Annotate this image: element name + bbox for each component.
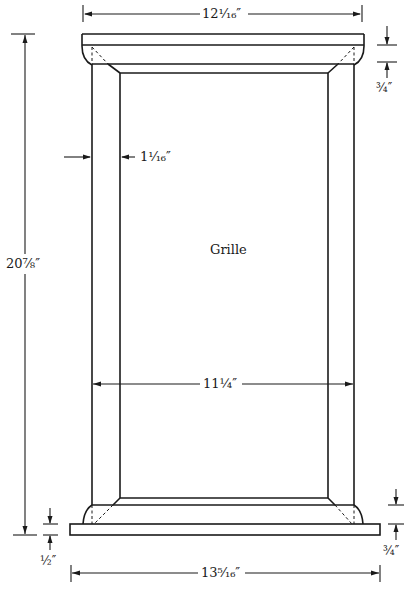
top-cap bbox=[82, 34, 364, 65]
top-width-label: 12¹⁄₁₆″ bbox=[202, 7, 241, 20]
inner-width-label: 11¼″ bbox=[203, 377, 237, 390]
bottom-rail-height-label: ¾″ bbox=[383, 545, 399, 557]
overall-height-dimension bbox=[11, 34, 37, 535]
stile-width-dimension bbox=[64, 155, 135, 160]
base-thickness-dimension bbox=[43, 508, 58, 550]
bottom-rail-height-dimension bbox=[388, 489, 404, 540]
base-thickness-label: ½″ bbox=[40, 555, 56, 567]
bottom-rail-and-base bbox=[70, 505, 380, 535]
frame-body bbox=[92, 64, 354, 505]
top-cap-height-dimension bbox=[377, 26, 397, 78]
grille-frame-drawing bbox=[0, 0, 410, 590]
overall-height-label: 20⅞″ bbox=[6, 257, 40, 270]
top-cap-height-label: ¾″ bbox=[376, 82, 392, 94]
stile-width-label: 1¹⁄₁₆″ bbox=[140, 150, 171, 163]
part-label-grille: Grille bbox=[210, 243, 247, 256]
bottom-width-label: 13⁵⁄₁₆″ bbox=[201, 566, 240, 579]
